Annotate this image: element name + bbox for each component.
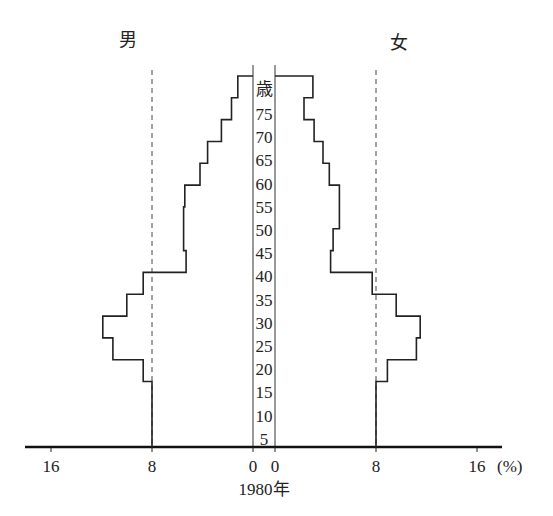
age-tick-label: 10 [256,407,273,426]
female-series-outline [275,76,420,447]
x-tick-label-left: 16 [43,457,60,476]
x-tick-label-left: 8 [148,457,157,476]
age-tick-label: 35 [256,291,273,310]
age-tick-label: 55 [256,198,273,217]
x-tick-label-right: 8 [372,457,381,476]
female-label: 女 [390,33,408,53]
x-tick-label-right: 16 [469,457,486,476]
age-tick-label: 45 [256,244,273,263]
x-tick-label-right: 0 [271,457,280,476]
age-unit-label: 歳 [256,80,273,99]
age-tick-label: 70 [256,128,273,147]
age-tick-label: 5 [260,430,269,449]
age-tick-label: 15 [256,383,273,402]
age-tick-label: 25 [256,337,273,356]
male-series-outline [103,76,253,447]
year-label: 1980年 [239,480,290,499]
age-tick-label: 75 [256,105,273,124]
age-tick-label: 30 [256,314,273,333]
age-tick-label: 65 [256,151,273,170]
age-tick-label: 40 [256,267,273,286]
population-pyramid-chart: 16800816(%)1980年男女歳757065605550454035302… [0,0,553,516]
male-label: 男 [119,30,137,50]
x-unit-label: (%) [497,457,522,476]
age-tick-label: 60 [256,175,273,194]
age-tick-label: 20 [256,360,273,379]
x-tick-label-left: 0 [249,457,258,476]
labels-layer: 16800816(%)1980年男女歳757065605550454035302… [43,30,523,499]
age-tick-label: 50 [256,221,273,240]
